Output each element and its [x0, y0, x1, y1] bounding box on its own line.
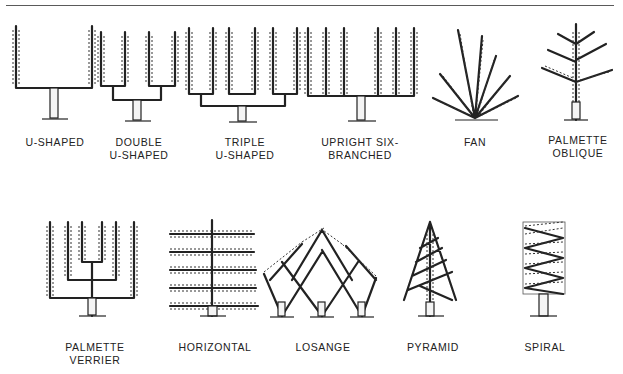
horizontal-tree-icon: [166, 218, 262, 318]
label-palmette-oblique: PALMETTE OBLIQUE: [538, 134, 618, 160]
label-spiral: SPIRAL: [510, 341, 580, 354]
palmette-verrier-tree-icon: [44, 218, 140, 318]
spiral-tree-icon: [521, 220, 567, 318]
u-shaped-tree-icon: [8, 22, 98, 122]
figure-pyramid: [400, 220, 460, 318]
label-losange: LOSANGE: [288, 341, 358, 354]
figure-horizontal: [166, 218, 262, 318]
figure-upright-six-branched: [302, 24, 420, 124]
figure-palmette-oblique: [540, 22, 615, 122]
label-u-shaped: U-SHAPED: [20, 136, 90, 149]
label-double-u-shaped: DOUBLE U-SHAPED: [104, 136, 174, 162]
figure-triple-u-shaped: [185, 24, 305, 124]
figure-losange: [262, 222, 380, 318]
label-palmette-verrier: PALMETTE VERRIER: [55, 341, 135, 367]
top-rule: [6, 5, 614, 6]
pyramid-tree-icon: [400, 220, 460, 318]
losange-tree-icon: [262, 222, 380, 318]
double-u-shaped-tree-icon: [95, 28, 180, 123]
figure-fan: [430, 28, 520, 122]
fan-tree-icon: [430, 28, 520, 122]
label-triple-u-shaped: TRIPLE U-SHAPED: [210, 136, 280, 162]
label-upright-six-branched: UPRIGHT SIX- BRANCHED: [315, 136, 405, 162]
label-horizontal: HORIZONTAL: [170, 341, 260, 354]
upright-six-branched-tree-icon: [302, 24, 420, 124]
figure-double-u-shaped: [95, 28, 180, 123]
figure-u-shaped: [8, 22, 98, 122]
triple-u-shaped-tree-icon: [185, 24, 305, 124]
palmette-oblique-tree-icon: [540, 22, 615, 122]
figure-spiral: [521, 220, 567, 318]
figure-palmette-verrier: [44, 218, 140, 318]
label-fan: FAN: [440, 136, 510, 149]
label-pyramid: PYRAMID: [398, 341, 468, 354]
